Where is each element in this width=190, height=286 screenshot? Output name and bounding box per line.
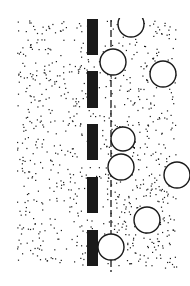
particle-dot (164, 191, 165, 192)
particle-dot (24, 78, 25, 79)
particle-dot (152, 189, 153, 190)
particle-dot (30, 73, 31, 74)
particle-dot (103, 206, 104, 207)
particle-dot (17, 248, 18, 249)
particle-dot (69, 123, 70, 124)
particle-dot (175, 39, 176, 40)
particle-dot (132, 243, 133, 244)
particle-dot (149, 25, 150, 26)
barrier-bar (87, 124, 98, 160)
particle-dot (41, 39, 42, 40)
particle-dot (68, 92, 69, 93)
particle-dot (146, 195, 147, 196)
particle-dot (166, 191, 167, 192)
particle-dot (40, 116, 41, 117)
particle-dot (54, 84, 55, 85)
particle-dot (173, 103, 174, 104)
particle-dot (159, 29, 160, 30)
particle-dot (137, 187, 138, 188)
particle-dot (162, 211, 163, 212)
particle-dot (31, 102, 32, 103)
particle-dot (144, 255, 145, 256)
particle-dot (51, 85, 52, 86)
particle-dot (49, 199, 50, 200)
particle-dot (29, 85, 30, 86)
particle-dot (164, 117, 165, 118)
particle-dot (158, 144, 159, 145)
particle-dot (107, 21, 108, 22)
particle-dot (34, 29, 35, 30)
particle-dot (162, 245, 163, 246)
particle-dot (146, 66, 147, 67)
particle-dot (154, 178, 155, 179)
particle-dot (155, 130, 156, 131)
particle-dot (156, 33, 157, 34)
particle-dot (26, 207, 27, 208)
particle-dot (90, 167, 91, 168)
particle-dot (50, 224, 51, 225)
particle-dot (26, 148, 27, 149)
particle-dot (167, 35, 168, 36)
particle-dot (69, 64, 70, 65)
particle-dot (138, 159, 139, 160)
particle-dot (29, 121, 30, 122)
particle-dot (35, 180, 36, 181)
particle-dot (145, 262, 146, 263)
particle-dot (70, 152, 71, 153)
particle-dot (37, 119, 38, 120)
particle-dot (25, 202, 26, 203)
particle-dot (80, 172, 81, 173)
particle-dot (136, 207, 137, 208)
particle-dot (104, 116, 105, 117)
particle-dot (82, 135, 83, 136)
particle-dot (76, 103, 77, 104)
particle-dot (63, 182, 64, 183)
particle-dot (107, 189, 108, 190)
particle-dot (168, 222, 169, 223)
particle-dot (86, 175, 87, 176)
particle-dot (154, 105, 155, 106)
particle-dot (136, 42, 137, 43)
particle-dot (174, 267, 175, 268)
particle-dot (136, 52, 137, 53)
particle-dot (157, 201, 158, 202)
particle-dot (17, 149, 18, 150)
particle-dot (60, 180, 61, 181)
particle-dot (72, 156, 73, 157)
particle-dot (140, 259, 141, 260)
particle-dot (33, 26, 34, 27)
particle-dot (136, 185, 137, 186)
particle-dot (175, 82, 176, 83)
particle-dot (136, 198, 137, 199)
particle-dot (135, 179, 136, 180)
particle-dot (56, 183, 57, 184)
particle-dot (138, 169, 139, 170)
particle-dot (46, 30, 47, 31)
particle-dot (122, 227, 123, 228)
particle-dot (28, 229, 29, 230)
particle-dot (55, 219, 56, 220)
particle-dot (71, 71, 72, 72)
particle-dot (156, 160, 157, 161)
particle-dot (133, 239, 134, 240)
particle-dot (44, 230, 45, 231)
particle-dot (143, 184, 144, 185)
particle-dot (26, 117, 27, 118)
particle-dot (116, 207, 117, 208)
particle-dot (34, 163, 35, 164)
particle-dot (153, 24, 154, 25)
particle-dot (86, 178, 87, 179)
particle-dot (50, 169, 51, 170)
particle-dot (128, 124, 129, 125)
particle-dot (169, 235, 170, 236)
particle-dot (44, 39, 45, 40)
particle-dot (169, 38, 170, 39)
particle-dot (52, 161, 53, 162)
particle-dot (54, 145, 55, 146)
particle-dot (52, 258, 53, 259)
particle-dot (130, 77, 131, 78)
particle-dot (63, 21, 64, 22)
particle-dot (77, 156, 78, 157)
particle-dot (158, 201, 159, 202)
particle-dot (40, 100, 41, 101)
